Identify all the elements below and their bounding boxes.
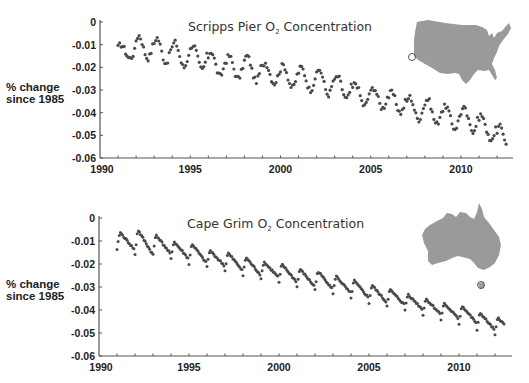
- data-point: [147, 59, 150, 62]
- location-marker-icon: [409, 54, 416, 61]
- data-point: [148, 248, 151, 251]
- data-point: [467, 117, 470, 120]
- data-point: [154, 39, 157, 42]
- data-point: [377, 95, 380, 98]
- data-point: [326, 93, 329, 96]
- data-point: [133, 47, 136, 50]
- data-point: [302, 67, 305, 70]
- data-point: [172, 41, 175, 44]
- data-point: [432, 304, 435, 307]
- data-point: [278, 281, 281, 284]
- data-point: [443, 103, 446, 106]
- data-point: [292, 83, 295, 86]
- data-point: [225, 262, 228, 265]
- data-point: [366, 98, 369, 101]
- data-point: [459, 113, 462, 116]
- data-point: [479, 112, 482, 115]
- data-point: [178, 55, 181, 58]
- data-point: [503, 323, 506, 326]
- data-point: [390, 88, 393, 91]
- data-point: [371, 86, 374, 89]
- y-tick-label: -0.04: [71, 304, 95, 316]
- cape-grim-chart: % change since 1985 Cape Grim O2 Concent…: [0, 195, 529, 383]
- data-point: [144, 53, 147, 56]
- data-point: [312, 284, 315, 287]
- data-point: [305, 79, 308, 82]
- data-point: [225, 62, 228, 65]
- australia-map-icon: [422, 203, 501, 289]
- data-point: [495, 325, 498, 328]
- data-point: [160, 50, 163, 53]
- data-point: [294, 280, 297, 283]
- data-point: [447, 109, 450, 112]
- y-tick-label: -0.03: [72, 84, 96, 96]
- data-point: [142, 45, 145, 48]
- data-point: [117, 240, 120, 243]
- data-point: [399, 113, 402, 116]
- data-point: [431, 110, 434, 113]
- data-point: [350, 83, 353, 86]
- data-point: [260, 277, 263, 280]
- cape-grim-plot-area: Cape Grim O2 Concentration 0-0.01-0.02-0…: [0, 195, 529, 383]
- x-tick-label: 1995: [179, 163, 203, 175]
- data-point: [243, 59, 246, 62]
- data-point: [264, 62, 267, 65]
- data-point: [279, 70, 282, 73]
- data-point: [186, 256, 189, 259]
- data-point: [478, 119, 481, 122]
- data-point: [150, 52, 153, 55]
- data-point: [491, 137, 494, 140]
- data-point: [333, 284, 336, 287]
- data-point: [441, 110, 444, 113]
- data-point: [286, 79, 289, 82]
- data-point: [174, 39, 177, 42]
- data-point: [414, 111, 417, 114]
- data-point: [368, 302, 371, 305]
- data-point: [296, 285, 299, 288]
- data-point: [288, 82, 291, 85]
- data-point: [323, 80, 326, 83]
- data-point: [437, 123, 440, 126]
- y-tick-label: -0.05: [72, 129, 96, 141]
- data-point: [211, 53, 214, 56]
- data-point: [378, 102, 381, 105]
- data-point: [201, 256, 204, 259]
- data-point: [308, 86, 311, 89]
- scripps-pier-chart: % change since 1985 Scripps Pier O2 Conc…: [0, 0, 529, 195]
- data-point: [348, 91, 351, 94]
- data-point: [241, 67, 244, 70]
- data-point: [351, 86, 354, 89]
- data-point: [494, 333, 497, 336]
- data-point: [213, 57, 216, 60]
- data-point: [279, 273, 282, 276]
- data-point: [359, 94, 362, 97]
- data-point: [314, 77, 317, 80]
- data-point: [253, 76, 256, 79]
- y-tick-label: -0.02: [71, 258, 95, 270]
- data-point: [195, 49, 198, 52]
- data-point: [193, 44, 196, 47]
- y-tick-label: -0.01: [71, 235, 95, 247]
- data-point: [204, 61, 207, 64]
- data-point: [383, 107, 386, 110]
- data-point: [247, 55, 250, 58]
- data-point: [470, 129, 473, 132]
- x-tick-label: 1990: [90, 163, 114, 175]
- data-point: [422, 314, 425, 317]
- data-point: [118, 41, 121, 44]
- data-point: [441, 311, 444, 314]
- data-point: [267, 69, 270, 72]
- data-point: [419, 118, 422, 121]
- data-point: [123, 45, 126, 48]
- data-point: [135, 243, 138, 246]
- data-point: [407, 97, 410, 100]
- data-point: [282, 63, 285, 66]
- data-point: [334, 278, 337, 281]
- data-point: [138, 231, 141, 234]
- chart-title: Cape Grim O2 Concentration: [187, 216, 364, 233]
- data-point: [387, 96, 390, 99]
- data-point: [456, 317, 459, 320]
- data-point: [222, 264, 225, 267]
- data-point: [198, 61, 201, 64]
- data-point: [132, 55, 135, 58]
